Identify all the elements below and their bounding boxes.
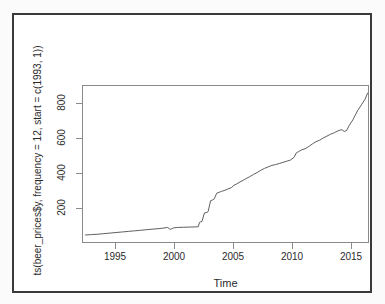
- y-tick-label-400: 400: [14, 167, 70, 178]
- y-tick-label-400-text: 400: [56, 164, 67, 181]
- x-axis-title: Time: [82, 277, 369, 289]
- x-tick-label-2005: 2005: [213, 251, 253, 262]
- y-tick-label-200: 200: [14, 202, 70, 213]
- figure-frame: ts(beer_prices$y, frequency = 12, start …: [12, 13, 372, 293]
- x-tick-label-1995: 1995: [95, 251, 135, 262]
- series-line-beer-prices: [85, 93, 367, 235]
- y-tick-label-600: 600: [14, 132, 70, 143]
- x-tick-label-2000: 2000: [154, 251, 194, 262]
- y-tick-label-600-text: 600: [56, 129, 67, 146]
- x-tick-label-2015: 2015: [331, 251, 371, 262]
- time-series-plot: [83, 86, 370, 244]
- y-axis-title: ts(beer_prices$y, frequency = 12, start …: [32, 36, 43, 286]
- y-tick-label-800: 800: [14, 97, 70, 108]
- plot-area: [82, 85, 369, 243]
- y-tick-label-200-text: 200: [56, 199, 67, 216]
- x-tick-label-2010: 2010: [272, 251, 312, 262]
- y-tick-label-800-text: 800: [56, 94, 67, 111]
- screenshot-root: ts(beer_prices$y, frequency = 12, start …: [0, 0, 385, 304]
